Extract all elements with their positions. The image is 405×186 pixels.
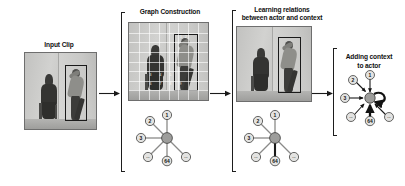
graph-nodes: 1 2 3 ... 64 ... <box>244 110 298 165</box>
edge-node-dots-right-to-hub <box>375 104 386 115</box>
stage-title-graph-construction: Graph Construction <box>126 8 214 16</box>
grid-cell-number: 5 <box>170 73 172 77</box>
stage-title-input-clip: Input Clip <box>18 41 100 49</box>
grid-cell-number: 6 <box>150 82 152 86</box>
graph-node-dots-right-label: ... <box>387 114 390 119</box>
chair <box>251 76 254 91</box>
flow-arrow-2 <box>210 84 232 93</box>
graph-node-3-label: 3 <box>248 135 251 141</box>
graph-hub-node <box>365 93 375 103</box>
graph-nodes: 1 2 3 ... 64 ... <box>136 110 190 165</box>
input-clip-photo <box>24 52 97 130</box>
graph-node-64-label: 64 <box>367 118 373 124</box>
grid-cell-number: 7 <box>160 82 162 86</box>
photo-wall-seam <box>58 53 59 129</box>
chair <box>39 103 42 119</box>
grid-cell-number: 2 <box>185 35 187 39</box>
graph-node-1-label: 1 <box>369 72 372 78</box>
actor-bounding-box <box>65 65 87 121</box>
graph-node-2-label: 2 <box>352 77 355 83</box>
grid-cell-number: 4 <box>160 73 162 77</box>
grid-cell-number: 8 <box>170 82 172 86</box>
graph-node-3-label: 3 <box>140 135 143 141</box>
chair-leg <box>55 105 57 119</box>
graph-node-2-label: 2 <box>149 118 152 124</box>
flow-arrow-3 <box>312 84 334 93</box>
graph-hub-node <box>270 133 281 144</box>
graph-node-3-label: 3 <box>344 95 347 101</box>
graph-node-dots-left-label: ... <box>349 114 352 119</box>
seated-person-legs <box>42 102 56 119</box>
graph-node-dots-right-label: ... <box>184 154 187 159</box>
star-graph-construction: 1 2 3 ... 64 ... <box>126 104 208 172</box>
edge-node-dots-left-to-hub <box>354 104 364 115</box>
graph-node-64-label: 64 <box>164 158 170 164</box>
graph-node-dots-left-label: ... <box>146 154 149 159</box>
graph-node-1-label: 1 <box>274 112 277 118</box>
graph-node-64-label: 64 <box>272 158 278 164</box>
seated-person-legs <box>254 74 268 91</box>
stage-title-learning-relations: Learning relations between actor and con… <box>234 6 330 22</box>
bracket-graph-construction <box>121 12 125 172</box>
pipeline-figure: Input Clip Graph Construction <box>0 0 405 186</box>
edge-node-2-to-hub <box>356 82 366 92</box>
star-graph-learning-relations: 1 2 3 ... 64 ... <box>234 104 316 172</box>
graph-node-2-label: 2 <box>257 118 260 124</box>
grid-cell-number: 9 <box>180 82 182 86</box>
grid-cell-number: 1 <box>180 35 182 39</box>
graph-hub-node <box>162 133 173 144</box>
grid-cell-number: 3 <box>150 73 152 77</box>
photo-wall-seam <box>272 27 273 101</box>
hub-self-loop <box>374 93 385 103</box>
flow-arrow-1 <box>99 84 121 93</box>
graph-node-dots-left-label: ... <box>254 154 257 159</box>
directed-graph-adding-context: 1 2 3 ... 64 ... <box>338 68 402 132</box>
graph-node-1-label: 1 <box>166 112 169 118</box>
graph-construction-photo: 1 2 3 4 5 6 7 8 9 <box>128 22 209 101</box>
feature-grid-overlay: 1 2 3 4 5 6 7 8 9 <box>129 23 208 100</box>
graph-node-dots-right-label: ... <box>292 154 295 159</box>
learning-relations-photo <box>236 26 312 102</box>
actor-bounding-box <box>278 37 301 93</box>
